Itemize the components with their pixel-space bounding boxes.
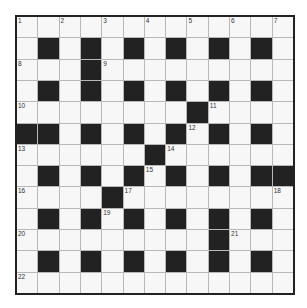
grid-cell[interactable] (209, 145, 229, 165)
grid-cell[interactable]: 12 (187, 124, 207, 144)
grid-cell[interactable]: 14 (166, 145, 186, 165)
grid-cell[interactable] (145, 102, 165, 122)
grid-cell[interactable] (38, 230, 58, 250)
grid-cell[interactable] (124, 102, 144, 122)
grid-cell[interactable]: 13 (17, 145, 37, 165)
grid-cell[interactable] (273, 145, 293, 165)
grid-cell[interactable] (273, 251, 293, 271)
grid-cell[interactable] (230, 124, 250, 144)
grid-cell[interactable] (17, 251, 37, 271)
grid-cell[interactable] (60, 124, 80, 144)
grid-cell[interactable] (187, 251, 207, 271)
grid-cell[interactable] (273, 102, 293, 122)
grid-cell[interactable] (166, 102, 186, 122)
grid-cell[interactable] (230, 60, 250, 80)
grid-cell[interactable] (102, 81, 122, 101)
grid-cell[interactable] (251, 187, 271, 207)
grid-cell[interactable] (273, 38, 293, 58)
grid-cell[interactable] (273, 273, 293, 293)
grid-cell[interactable] (145, 38, 165, 58)
grid-cell[interactable] (38, 102, 58, 122)
grid-cell[interactable]: 15 (145, 166, 165, 186)
grid-cell[interactable] (145, 124, 165, 144)
grid-cell[interactable] (102, 251, 122, 271)
grid-cell[interactable]: 20 (17, 230, 37, 250)
grid-cell[interactable]: 21 (230, 230, 250, 250)
grid-cell[interactable]: 1 (17, 17, 37, 37)
grid-cell[interactable] (124, 17, 144, 37)
grid-cell[interactable] (124, 230, 144, 250)
grid-cell[interactable] (166, 230, 186, 250)
grid-cell[interactable] (60, 187, 80, 207)
grid-cell[interactable] (60, 166, 80, 186)
grid-cell[interactable]: 8 (17, 60, 37, 80)
grid-cell[interactable] (102, 102, 122, 122)
grid-cell[interactable]: 19 (102, 209, 122, 229)
grid-cell[interactable] (166, 17, 186, 37)
grid-cell[interactable] (81, 230, 101, 250)
grid-cell[interactable] (187, 38, 207, 58)
grid-cell[interactable] (60, 145, 80, 165)
grid-cell[interactable] (38, 273, 58, 293)
grid-cell[interactable] (60, 230, 80, 250)
grid-cell[interactable]: 5 (187, 17, 207, 37)
grid-cell[interactable] (187, 273, 207, 293)
grid-cell[interactable] (81, 102, 101, 122)
grid-cell[interactable] (166, 60, 186, 80)
grid-cell[interactable] (38, 187, 58, 207)
grid-cell[interactable] (187, 81, 207, 101)
grid-cell[interactable] (209, 17, 229, 37)
grid-cell[interactable] (251, 60, 271, 80)
grid-cell[interactable] (230, 209, 250, 229)
grid-cell[interactable] (124, 60, 144, 80)
grid-cell[interactable] (38, 145, 58, 165)
grid-cell[interactable] (230, 273, 250, 293)
grid-cell[interactable] (102, 230, 122, 250)
grid-cell[interactable] (251, 145, 271, 165)
grid-cell[interactable] (187, 209, 207, 229)
grid-cell[interactable] (60, 81, 80, 101)
grid-cell[interactable] (166, 273, 186, 293)
grid-cell[interactable] (81, 273, 101, 293)
grid-cell[interactable] (187, 166, 207, 186)
grid-cell[interactable] (273, 60, 293, 80)
grid-cell[interactable]: 7 (273, 17, 293, 37)
grid-cell[interactable] (17, 38, 37, 58)
grid-cell[interactable] (230, 145, 250, 165)
grid-cell[interactable] (230, 251, 250, 271)
grid-cell[interactable]: 6 (230, 17, 250, 37)
grid-cell[interactable] (230, 187, 250, 207)
grid-cell[interactable] (81, 17, 101, 37)
grid-cell[interactable] (102, 145, 122, 165)
grid-cell[interactable] (251, 102, 271, 122)
grid-cell[interactable]: 2 (60, 17, 80, 37)
grid-cell[interactable]: 18 (273, 187, 293, 207)
grid-cell[interactable] (230, 38, 250, 58)
grid-cell[interactable] (230, 81, 250, 101)
grid-cell[interactable] (209, 273, 229, 293)
grid-cell[interactable] (17, 166, 37, 186)
grid-cell[interactable] (60, 251, 80, 271)
grid-cell[interactable]: 22 (17, 273, 37, 293)
grid-cell[interactable]: 10 (17, 102, 37, 122)
grid-cell[interactable] (38, 17, 58, 37)
grid-cell[interactable]: 11 (209, 102, 229, 122)
grid-cell[interactable] (251, 273, 271, 293)
grid-cell[interactable] (145, 60, 165, 80)
grid-cell[interactable] (102, 166, 122, 186)
grid-cell[interactable] (145, 251, 165, 271)
grid-cell[interactable]: 9 (102, 60, 122, 80)
grid-cell[interactable] (187, 145, 207, 165)
grid-cell[interactable] (145, 81, 165, 101)
grid-cell[interactable]: 17 (124, 187, 144, 207)
grid-cell[interactable] (60, 209, 80, 229)
grid-cell[interactable]: 4 (145, 17, 165, 37)
grid-cell[interactable] (273, 230, 293, 250)
grid-cell[interactable]: 3 (102, 17, 122, 37)
grid-cell[interactable] (230, 102, 250, 122)
grid-cell[interactable] (209, 187, 229, 207)
grid-cell[interactable] (102, 273, 122, 293)
grid-cell[interactable] (60, 102, 80, 122)
grid-cell[interactable] (187, 60, 207, 80)
grid-cell[interactable] (187, 187, 207, 207)
